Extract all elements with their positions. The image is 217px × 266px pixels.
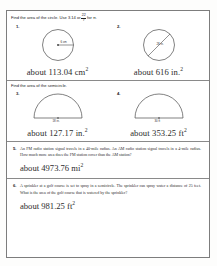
problem-row-1: 1. 6 cm about 113.04 cm2 2. — [7, 22, 209, 80]
problem-row-2: 3. 18 in. about 127.17 in.2 4. — [7, 89, 209, 141]
problem-6-answer-text: about 981.25 ft — [20, 201, 72, 211]
problem-1-figure: 6 cm — [40, 27, 76, 63]
instruction-circles-suffix: for π. — [87, 15, 97, 20]
problem-5-text: An FM radio station signal travels in a … — [20, 146, 201, 158]
problem-1-answer-text: about 113.04 cm — [27, 67, 86, 77]
problem-4-number: 4. — [117, 91, 121, 96]
instruction-semicircles: Find the area of the semicircle. — [7, 81, 209, 89]
problem-2-answer-exponent: 2 — [180, 66, 183, 72]
problem-2-figure: 28 in. — [141, 27, 177, 63]
problem-3-figure: 18 in. — [30, 93, 86, 123]
problem-4-figure: 30 ft — [131, 93, 187, 123]
problem-3-answer-text: about 127.17 in. — [27, 128, 84, 138]
problem-4-answer-text: about 353.25 ft — [130, 128, 184, 138]
problem-3: 3. 18 in. about 127.17 in.2 — [7, 89, 108, 141]
problem-1: 1. 6 cm about 113.04 cm2 — [7, 22, 108, 80]
problem-1-dimension-label: 6 cm — [61, 40, 67, 44]
worksheet-page: 4.3 Record and Practice Journal Find the… — [0, 0, 217, 266]
problem-4-answer: about 353.25 ft2 — [108, 127, 209, 138]
problem-3-answer-exponent: 2 — [85, 127, 88, 133]
problem-5: 5. An FM radio station signal travels in… — [7, 142, 209, 173]
problem-6-answer-exponent: 2 — [72, 200, 75, 206]
problem-6-answer: about 981.25 ft2 — [20, 200, 201, 211]
page-header: 4.3 Record and Practice Journal — [0, 0, 217, 5]
pi-fraction: 227 — [81, 14, 86, 22]
problem-6-number: 6. — [13, 183, 17, 188]
problem-5-answer-exponent: 2 — [80, 162, 83, 168]
instruction-circles: Find the area of the circle. Use 3.14 or… — [7, 11, 209, 22]
problem-2: 2. 28 in. about 616 in.2 — [108, 22, 209, 80]
problem-4-dimension-label: 30 ft — [155, 119, 161, 123]
problem-1-answer: about 113.04 cm2 — [7, 66, 108, 77]
problem-4-answer-exponent: 2 — [184, 127, 187, 133]
problem-6-text: A sprinkler at a golf course is set to s… — [20, 183, 201, 195]
problem-5-answer: about 4973.76 mi2 — [20, 162, 201, 173]
section-circles: Find the area of the circle. Use 3.14 or… — [7, 11, 209, 80]
instruction-circles-prefix: Find the area of the circle. Use 3.14 or — [11, 15, 81, 20]
problem-2-dimension-label: 28 in. — [157, 42, 164, 46]
problem-3-answer: about 127.17 in.2 — [7, 127, 108, 138]
problem-2-number: 2. — [117, 24, 121, 29]
problem-1-number: 1. — [16, 24, 20, 29]
problem-2-answer: about 616 in.2 — [108, 66, 209, 77]
problem-3-number: 3. — [16, 91, 20, 96]
problem-4: 4. 30 ft about 353.25 ft2 — [108, 89, 209, 141]
problem-3-dimension-label: 18 in. — [53, 119, 60, 123]
problem-6: 6. A sprinkler at a golf course is set t… — [7, 179, 209, 210]
circle-with-radius-diagram — [40, 27, 76, 63]
worksheet-frame: Find the area of the circle. Use 3.14 or… — [6, 10, 210, 258]
problem-1-answer-exponent: 2 — [85, 66, 88, 72]
problem-5-number: 5. — [13, 146, 17, 151]
page-title: 4.3 Record and Practice Journal — [34, 0, 183, 2]
problem-2-answer-text: about 616 in. — [134, 67, 180, 77]
problem-5-answer-text: about 4973.76 mi — [20, 163, 80, 173]
section-semicircles: Find the area of the semicircle. 3. 18 i… — [7, 81, 209, 141]
